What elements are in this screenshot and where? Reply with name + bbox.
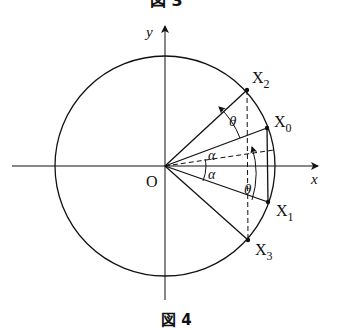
point-X0 xyxy=(265,126,269,130)
unit-circle-diagram: 図 3 x y O α α θ θ X2 X0 X1 X3 図 4 xyxy=(0,0,341,330)
label-X2: X2 xyxy=(252,69,270,91)
label-X3: X3 xyxy=(255,241,273,263)
radius-OX3 xyxy=(165,166,248,240)
point-X2 xyxy=(245,88,249,92)
alpha-label-upper: α xyxy=(208,148,216,163)
dashed-ray xyxy=(165,150,274,166)
radius-OX0 xyxy=(165,128,267,166)
theta-arc-lower xyxy=(252,147,256,200)
top-caption: 図 3 xyxy=(150,0,183,10)
origin-label: O xyxy=(146,173,158,190)
alpha-label-lower: α xyxy=(208,167,216,182)
theta-label-lower: θ xyxy=(244,181,252,197)
dashed-X2-X3 xyxy=(247,90,248,240)
label-X0: X0 xyxy=(274,113,292,135)
alpha-arc-lower xyxy=(203,166,206,181)
figure-caption: 図 4 xyxy=(161,311,192,329)
x-axis-label: x xyxy=(310,171,318,187)
label-X1: X1 xyxy=(276,202,294,224)
point-X3 xyxy=(246,238,250,242)
theta-label-upper: θ xyxy=(229,113,237,129)
chord-X0-X1 xyxy=(267,128,268,202)
y-axis-label: y xyxy=(144,24,153,40)
point-X1 xyxy=(266,200,270,204)
